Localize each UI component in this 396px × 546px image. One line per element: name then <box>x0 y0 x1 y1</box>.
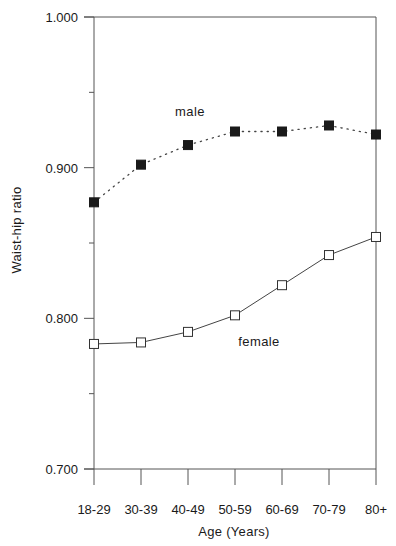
male-marker-60-69 <box>278 127 287 136</box>
plot-frame <box>84 17 376 469</box>
x-tick-label: 60-69 <box>265 502 298 517</box>
y-tick-label: 0.900 <box>45 161 78 176</box>
female-marker-70-79 <box>325 251 334 260</box>
female-marker-60-69 <box>278 281 287 290</box>
male-marker-30-39 <box>137 160 146 169</box>
female-marker-80+ <box>372 232 381 241</box>
series-label-male: male <box>175 104 205 119</box>
male-marker-80+ <box>372 130 381 139</box>
x-axis-title: Age (Years) <box>198 524 269 539</box>
data-series <box>90 121 381 348</box>
x-axis-ticks: 18-2930-3940-4950-5960-6970-7980+ <box>77 469 387 517</box>
x-tick-label: 80+ <box>365 502 387 517</box>
female-marker-30-39 <box>137 338 146 347</box>
y-tick-label: 0.700 <box>45 462 78 477</box>
x-tick-label: 40-49 <box>171 502 204 517</box>
x-tick-label: 70-79 <box>312 502 345 517</box>
x-tick-label: 30-39 <box>124 502 157 517</box>
series-label-female: female <box>238 334 279 349</box>
female-marker-50-59 <box>231 311 240 320</box>
female-marker-40-49 <box>184 327 193 336</box>
male-marker-40-49 <box>184 141 193 150</box>
waist-hip-ratio-chart: 1.0000.9000.8000.700 18-2930-3940-4950-5… <box>0 0 396 546</box>
male-marker-50-59 <box>231 127 240 136</box>
y-tick-label: 0.800 <box>45 311 78 326</box>
y-axis-ticks: 1.0000.9000.8000.700 <box>45 10 94 477</box>
male-marker-70-79 <box>325 121 334 130</box>
series-female <box>90 232 381 348</box>
x-tick-label: 50-59 <box>218 502 251 517</box>
y-tick-label: 1.000 <box>45 10 78 25</box>
female-marker-18-29 <box>90 339 99 348</box>
series-male <box>90 121 381 207</box>
y-axis-title: Waist-hip ratio <box>9 186 24 273</box>
male-marker-18-29 <box>90 198 99 207</box>
x-tick-label: 18-29 <box>77 502 110 517</box>
